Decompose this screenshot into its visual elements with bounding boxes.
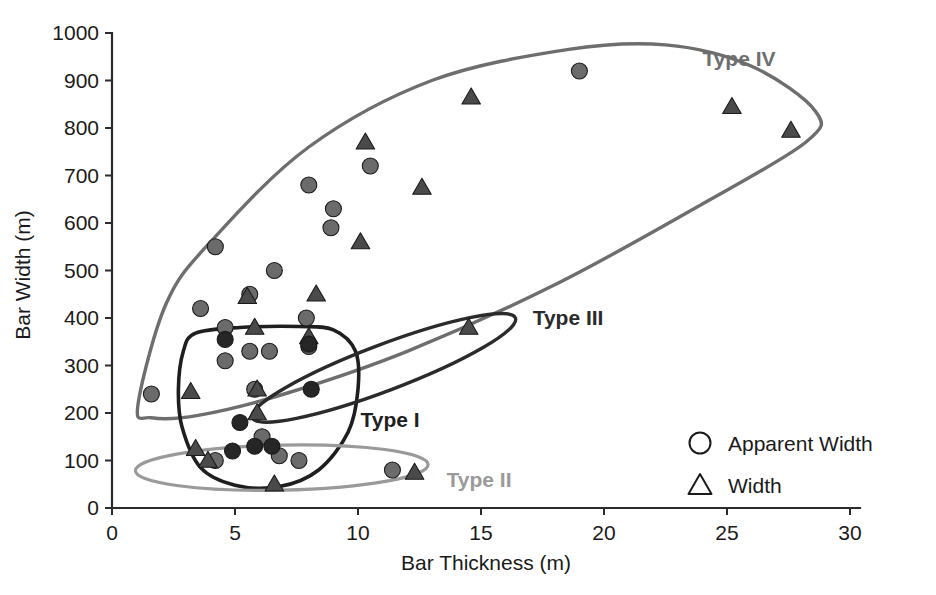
y-tick-label: 300: [64, 354, 99, 377]
data-point-circle: [323, 220, 339, 236]
data-point-circle: [247, 438, 263, 454]
data-point-circle: [217, 353, 233, 369]
y-tick-label: 1000: [52, 21, 99, 44]
data-point-circle: [143, 386, 159, 402]
data-point-circle: [217, 331, 233, 347]
plot-area: 01002003004005006007008009001000 0510152…: [0, 0, 936, 595]
data-point-triangle: [307, 285, 326, 301]
data-point-circle: [571, 63, 587, 79]
x-tick-label: 0: [106, 521, 118, 544]
scatter-chart: 01002003004005006007008009001000 0510152…: [0, 0, 936, 595]
x-axis-title: Bar Thickness (m): [401, 551, 571, 574]
data-point-circle: [384, 462, 400, 478]
x-tick-label: 25: [715, 521, 738, 544]
data-points: [143, 63, 800, 491]
type-iv-outline: [137, 44, 821, 419]
data-point-circle: [193, 301, 209, 317]
y-tick-label: 500: [64, 259, 99, 282]
data-point-circle: [303, 381, 319, 397]
legend-circle-icon: [690, 433, 711, 454]
x-tick-label: 15: [469, 521, 492, 544]
group-labels: Type IType IIType IIIType IV: [360, 47, 775, 490]
legend-label: Apparent Width: [728, 432, 873, 455]
data-point-circle: [207, 239, 223, 255]
data-point-circle: [301, 177, 317, 193]
y-tick-label: 900: [64, 69, 99, 92]
data-point-circle: [264, 438, 280, 454]
legend: Apparent WidthWidth: [689, 432, 873, 497]
group-label-type-iv: Type IV: [702, 47, 775, 70]
data-point-circle: [301, 336, 317, 352]
y-tick-label: 400: [64, 306, 99, 329]
data-point-triangle: [782, 121, 801, 137]
data-point-triangle: [413, 178, 432, 194]
data-point-circle: [242, 343, 258, 359]
data-point-triangle: [462, 88, 481, 104]
y-tick-label: 0: [87, 496, 99, 519]
x-axis-ticks: 051015202530: [106, 508, 862, 544]
data-point-triangle: [723, 97, 742, 113]
legend-triangle-icon: [689, 474, 712, 494]
y-tick-label: 800: [64, 116, 99, 139]
legend-label: Width: [728, 474, 782, 497]
data-point-triangle: [356, 133, 375, 149]
data-point-circle: [291, 453, 307, 469]
data-point-circle: [266, 263, 282, 279]
data-point-circle: [362, 158, 378, 174]
data-point-circle: [298, 310, 314, 326]
x-tick-label: 20: [592, 521, 615, 544]
y-tick-label: 200: [64, 401, 99, 424]
data-point-circle: [225, 443, 241, 459]
group-label-type-i: Type I: [360, 408, 419, 431]
y-axis-title: Bar Width (m): [11, 210, 34, 340]
y-tick-label: 100: [64, 449, 99, 472]
data-point-triangle: [351, 233, 370, 249]
y-tick-label: 700: [64, 164, 99, 187]
data-point-triangle: [265, 475, 284, 491]
y-axis-ticks: 01002003004005006007008009001000: [52, 21, 112, 519]
data-point-triangle: [181, 382, 200, 398]
y-tick-label: 600: [64, 211, 99, 234]
x-tick-label: 5: [229, 521, 241, 544]
data-point-circle: [232, 415, 248, 431]
group-label-type-iii: Type III: [533, 306, 604, 329]
x-tick-label: 10: [346, 521, 369, 544]
data-point-circle: [325, 201, 341, 217]
x-tick-label: 30: [838, 521, 861, 544]
group-label-type-ii: Type II: [447, 468, 512, 491]
data-point-triangle: [248, 404, 267, 420]
data-point-circle: [261, 343, 277, 359]
